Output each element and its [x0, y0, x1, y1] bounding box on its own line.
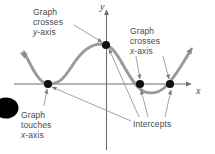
dot-y-intercept: [102, 41, 110, 49]
leader-intercepts-to-touch: [52, 87, 131, 121]
label-line-3: y-axis: [33, 27, 63, 37]
leader-crosses-x-axis-a: [136, 56, 140, 79]
axis-suffix: -axis: [37, 27, 55, 37]
dot-x-intercept-1: [136, 80, 144, 88]
leader-intercepts-to-x2: [165, 90, 171, 117]
label-line-3: x-axis: [130, 46, 160, 56]
label-graph-crosses-y-axis: Graph crosses y-axis: [33, 7, 63, 37]
label-intercepts: Intercepts: [133, 119, 171, 129]
leader-crosses-y-axis: [74, 25, 102, 42]
label-graph-crosses-x-axis: Graph crosses x-axis: [130, 26, 160, 56]
leader-touches-x-axis: [44, 89, 47, 106]
axis-suffix: -axis: [25, 130, 43, 140]
label-line-1: Graph: [33, 7, 63, 17]
leader-intercepts-to-x1: [141, 90, 148, 117]
graph-intercepts-figure: y x Graph crosses y-axis Graph crosses x…: [0, 0, 215, 154]
label-line-1: Graph: [130, 26, 160, 36]
label-line-2: crosses: [33, 17, 63, 27]
label-line-3: x-axis: [21, 130, 51, 140]
label-graph-touches-x-axis: Graph touches x-axis: [21, 110, 51, 140]
axis-suffix: -axis: [134, 46, 152, 56]
label-line-1: Graph: [21, 110, 51, 120]
label-line-2: crosses: [130, 36, 160, 46]
x-axis-label: x: [196, 85, 200, 96]
leader-crosses-x-axis-b: [163, 56, 169, 79]
dot-touch-x-axis: [44, 80, 52, 88]
dot-x-intercept-2: [166, 80, 174, 88]
scan-artifact-blob: [0, 98, 19, 119]
y-axis-label: y: [100, 1, 104, 12]
label-line-2: touches: [21, 120, 51, 130]
